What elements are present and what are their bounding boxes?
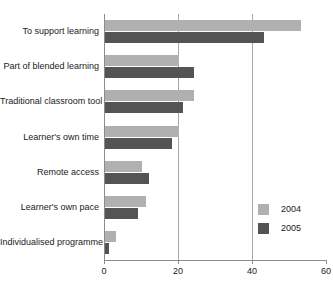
x-tick-0: [104, 260, 105, 264]
bar-2005: [105, 138, 172, 149]
x-tick-40: [252, 260, 253, 264]
bar-2005: [105, 32, 264, 43]
x-axis-line: [104, 260, 327, 261]
bar-2004: [105, 90, 194, 101]
category-label: Part of blended learning: [0, 61, 99, 72]
bar-2004: [105, 20, 301, 31]
category-label: Traditional classroom tool: [0, 96, 99, 107]
category-label: Remote access: [0, 167, 99, 178]
x-tick-label: 40: [247, 266, 257, 277]
category-label: To support learning: [0, 26, 99, 37]
category-axis-labels: To support learningPart of blended learn…: [0, 14, 99, 260]
bar-2005: [105, 173, 149, 184]
x-tick-label: 20: [173, 266, 183, 277]
category-label: Individualised programme: [0, 237, 99, 248]
bar-chart: To support learningPart of blended learn…: [0, 0, 333, 289]
legend-swatch-2004: [258, 204, 269, 215]
legend-label: 2004: [281, 203, 301, 216]
bar-2005: [105, 208, 138, 219]
bar-2004: [105, 55, 179, 66]
bar-2004: [105, 196, 146, 207]
bar-2004: [105, 231, 116, 242]
bar-2005: [105, 243, 109, 254]
legend-swatch-2005: [258, 223, 269, 234]
category-label: Learner's own pace: [0, 202, 99, 213]
x-tick-60: [326, 260, 327, 264]
bar-2004: [105, 161, 142, 172]
category-label: Learner's own time: [0, 132, 99, 143]
x-tick-20: [178, 260, 179, 264]
bar-2005: [105, 67, 194, 78]
legend-label: 2005: [281, 222, 301, 235]
x-tick-label: 0: [101, 266, 106, 277]
cropped-title-remnant: [40, 0, 100, 3]
bar-2005: [105, 102, 183, 113]
bar-2004: [105, 126, 179, 137]
x-tick-label: 60: [321, 266, 331, 277]
legend: 20042005: [258, 203, 316, 241]
